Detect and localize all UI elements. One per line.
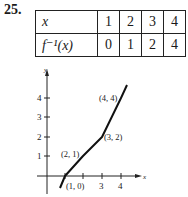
point-label: (3, 2) <box>104 132 123 142</box>
y-tick-label: 3 <box>37 112 42 122</box>
y-tick-label: 4 <box>37 93 42 103</box>
y-tick-label: 2 <box>37 132 42 142</box>
point-label: (2, 1) <box>61 149 80 159</box>
x-axis-label: x <box>142 173 147 181</box>
point-label: (4, 4) <box>99 93 118 103</box>
graph: y x 1 2 3 4 3 4 (1, 0) (2, 1) (3, 2) (4,… <box>0 0 188 197</box>
x-tick-label: 3 <box>99 181 104 191</box>
x-tick-label: 4 <box>118 181 123 191</box>
x-axis-arrow-icon <box>135 174 142 178</box>
point-label: (1, 0) <box>66 181 85 191</box>
y-tick-label: 1 <box>37 151 42 161</box>
